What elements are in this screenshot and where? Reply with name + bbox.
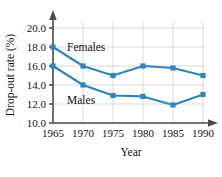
males-point-1990 — [200, 92, 205, 97]
x-tick-label-1965: 1965 — [42, 127, 65, 139]
y-tick-label-20: 20.0 — [27, 22, 47, 34]
males-point-1970 — [80, 82, 85, 87]
females-point-1980 — [140, 63, 145, 68]
x-tick-label-1985: 1985 — [162, 127, 185, 139]
females-point-1985 — [170, 65, 175, 70]
y-axis-title: Drop-out rate (%) — [4, 34, 17, 117]
x-axis-title: Year — [120, 146, 141, 158]
series-label-males: Males — [67, 94, 96, 106]
y-tick-label-14: 14.0 — [27, 79, 47, 91]
females-point-1990 — [200, 73, 205, 78]
females-point-1970 — [80, 63, 85, 68]
females-point-1975 — [110, 73, 115, 78]
chart-figure: 20.0 18.0 16.0 14.0 12.0 10.0 1965 1970 … — [0, 0, 222, 177]
y-tick-label-12: 12.0 — [27, 98, 47, 110]
y-tick-label-18: 18.0 — [27, 41, 47, 53]
males-point-1965 — [50, 63, 55, 68]
x-tick-label-1975: 1975 — [102, 127, 125, 139]
males-point-1975 — [110, 93, 115, 98]
x-tick-label-1990: 1990 — [192, 127, 215, 139]
y-tick-label-16: 16.0 — [27, 60, 47, 72]
series-label-females: Females — [67, 41, 106, 53]
males-point-1980 — [140, 94, 145, 99]
females-point-1965 — [50, 44, 55, 49]
x-tick-label-1970: 1970 — [72, 127, 95, 139]
males-point-1985 — [170, 102, 175, 107]
line-chart: 20.0 18.0 16.0 14.0 12.0 10.0 1965 1970 … — [0, 0, 222, 177]
x-tick-label-1980: 1980 — [132, 127, 155, 139]
